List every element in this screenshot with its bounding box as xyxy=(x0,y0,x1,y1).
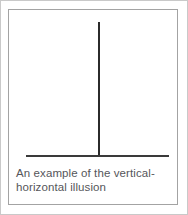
figure-page: An example of the vertical- horizontal i… xyxy=(0,0,188,215)
vertical-line xyxy=(98,22,100,157)
horizontal-line xyxy=(26,155,169,157)
illusion-stimulus xyxy=(9,10,177,159)
figure-frame: An example of the vertical- horizontal i… xyxy=(8,9,178,205)
figure-caption: An example of the vertical- horizontal i… xyxy=(16,167,174,194)
